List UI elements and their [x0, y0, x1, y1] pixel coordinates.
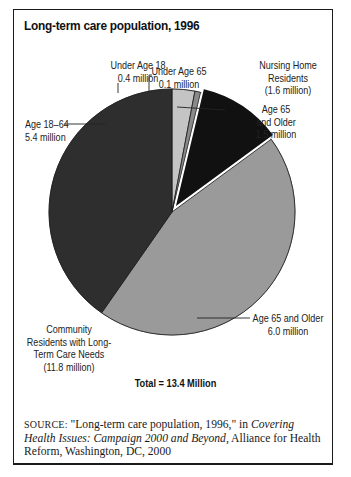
label-under-65-name: Under Age 65 — [146, 65, 211, 78]
label-comm65-name: Age 65 and Older — [245, 312, 331, 325]
label-community-65-older: Age 65 and Older 6.0 million — [245, 312, 331, 337]
source-prefix: SOURCE: — [24, 419, 68, 430]
label-community-group: Community Residents with Long- Term Care… — [23, 323, 116, 373]
label-nursing-home-group: Nursing Home Residents (1.6 million) — [249, 59, 326, 97]
source-citation: SOURCE: "Long-term care population, 1996… — [24, 418, 324, 459]
label-nh-group-line2: Residents — [249, 72, 326, 85]
label-comm-group-line2: Residents with Long- — [23, 336, 116, 349]
label-nh65-value: 1.5 million — [246, 128, 306, 141]
label-under-65-value: 0.1 million — [146, 78, 211, 91]
label-under-65: Under Age 65 0.1 million — [146, 65, 211, 90]
label-nh-65-older: Age 65 and Older 1.5 million — [246, 103, 306, 141]
label-nh-group-line1: Nursing Home — [249, 59, 326, 72]
label-age1864-value: 5.4 million — [25, 131, 69, 144]
label-age-18-64: Age 18–64 5.4 million — [25, 118, 69, 143]
label-comm65-value: 6.0 million — [245, 325, 331, 338]
label-comm-group-line1: Community — [23, 323, 116, 336]
label-comm-group-value: (11.8 million) — [23, 361, 116, 374]
source-text-before: "Long-term care population, 1996," in — [68, 418, 251, 431]
total-label: Total = 13.4 Million — [21, 377, 330, 389]
label-nh-group-value: (1.6 million) — [249, 84, 326, 97]
label-comm-group-line3: Term Care Needs — [23, 348, 116, 361]
label-age1864-name: Age 18–64 — [25, 118, 69, 131]
label-nh65-line1: Age 65 — [246, 103, 306, 116]
label-nh65-line2: and Older — [246, 116, 306, 129]
